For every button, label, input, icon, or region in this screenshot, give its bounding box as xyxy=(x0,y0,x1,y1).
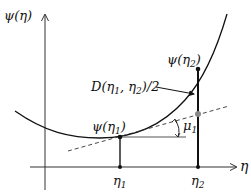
y-axis-label: ψ(η) xyxy=(4,8,32,23)
mu1-label: μ1 xyxy=(183,118,197,135)
d-label-arrow xyxy=(156,87,194,94)
x-axis-label: η xyxy=(240,158,249,174)
point-psi-eta2 xyxy=(196,67,201,72)
point-tangent-at-eta2 xyxy=(195,111,201,117)
d-half-label: D(η1, η2)/2 xyxy=(90,79,160,96)
psi-eta1-label: ψ(η1) xyxy=(92,119,126,136)
psi-eta2-label: ψ(η2) xyxy=(167,52,201,69)
point-eta1-axis xyxy=(118,165,122,169)
eta1-label: η1 xyxy=(113,173,127,190)
convex-function-diagram: ψ(η) η ψ(η2) D(η1, η2)/2 ψ(η1) μ1 η1 η2 xyxy=(0,0,251,192)
eta2-label: η2 xyxy=(191,173,205,190)
point-eta2-axis xyxy=(196,165,200,169)
